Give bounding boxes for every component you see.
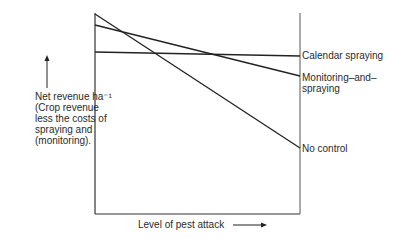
line-no-control: [95, 14, 300, 148]
arrow-right-icon: [261, 223, 267, 228]
label-calendar-spraying: Calendar spraying: [302, 50, 383, 61]
label-no-control: No control: [302, 143, 348, 154]
label-monitoring-and-spraying-line2: spraying: [302, 83, 340, 94]
line-calendar-spraying: [95, 52, 300, 56]
label-monitoring-and-spraying-line1: Monitoring–and–: [302, 72, 377, 83]
y-label-line: less the costs of: [35, 113, 112, 124]
y-axis-label: Net revenue ha⁻¹ (Crop revenue less the …: [35, 91, 112, 146]
y-label-line: Net revenue ha⁻¹: [35, 91, 112, 102]
arrow-up-icon: [45, 55, 50, 61]
x-axis-label: Level of pest attack: [138, 219, 224, 230]
y-label-line: spraying and: [35, 124, 112, 135]
y-label-line: (Crop revenue: [35, 102, 112, 113]
line-monitoring-and-spraying: [95, 25, 300, 76]
y-label-line: (monitoring).: [35, 135, 112, 146]
